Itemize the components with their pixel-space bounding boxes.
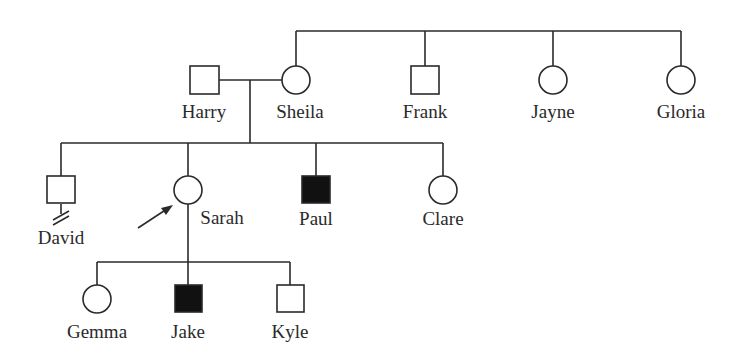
- affected-male-symbol-paul[interactable]: [302, 176, 330, 203]
- label-jayne: Jayne: [531, 102, 574, 121]
- affected-male-symbol-jake[interactable]: [175, 285, 202, 312]
- label-sarah: Sarah: [200, 208, 243, 227]
- label-david: David: [38, 228, 84, 247]
- label-gloria: Gloria: [657, 102, 706, 121]
- female-symbol-clare[interactable]: [429, 176, 457, 204]
- female-symbol-gloria[interactable]: [667, 66, 695, 94]
- mating-line-harry-sheila: [219, 80, 282, 143]
- sibship-line-sheila: [296, 31, 681, 66]
- label-sheila: Sheila: [276, 102, 324, 121]
- male-symbol-harry[interactable]: [190, 66, 219, 94]
- male-symbol-kyle[interactable]: [277, 285, 304, 312]
- male-symbol-david[interactable]: [47, 176, 75, 203]
- sibship-line-generation-2: [61, 143, 443, 176]
- label-frank: Frank: [403, 102, 447, 121]
- sibship-line-generation-3: [97, 204, 290, 285]
- label-jake: Jake: [171, 322, 205, 341]
- female-symbol-sheila[interactable]: [282, 66, 310, 94]
- label-clare: Clare: [422, 209, 463, 228]
- female-symbol-sarah[interactable]: [174, 176, 202, 204]
- female-symbol-gemma[interactable]: [83, 285, 111, 313]
- no-offspring-marker: [53, 204, 69, 225]
- label-harry: Harry: [182, 102, 226, 121]
- label-kyle: Kyle: [272, 322, 309, 341]
- label-paul: Paul: [299, 209, 333, 228]
- pedigree-diagram: [0, 0, 736, 360]
- male-symbol-frank[interactable]: [411, 66, 439, 94]
- female-symbol-jayne[interactable]: [539, 66, 567, 94]
- proband-arrow-icon: [138, 205, 173, 228]
- label-gemma: Gemma: [67, 322, 127, 341]
